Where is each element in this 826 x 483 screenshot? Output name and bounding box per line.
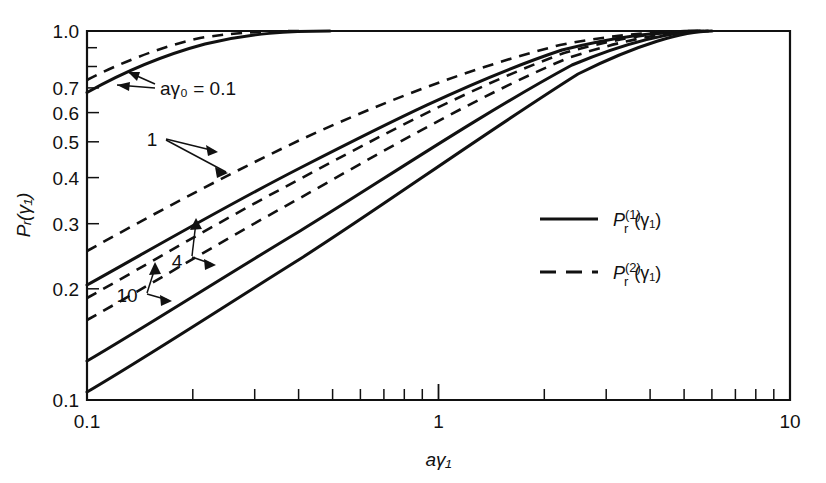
- x-axis-title-text: aγ₁: [425, 449, 451, 470]
- arrowhead-10-solid: [160, 295, 172, 306]
- legend-solid-arg: (γ₁): [634, 210, 661, 230]
- x-tick-label-2: 10: [779, 411, 800, 432]
- x-tick-label-1: 1: [433, 411, 444, 432]
- legend-label-solid: P(1)r(γ₁): [613, 207, 661, 236]
- annotation-label-0.1: aγ₀ = 0.1: [160, 78, 236, 99]
- legend-item-solid: P(1)r(γ₁): [540, 207, 661, 236]
- annotation-label-4: 4: [172, 251, 183, 272]
- y-tick-label-0: 0.1: [53, 390, 79, 411]
- curve-dashed-1: [87, 31, 698, 251]
- annotation-label-1: 1: [147, 129, 158, 150]
- figure-container: 0.1 0.2 0.3 0.4 0.5 0.6 0.7 1.0: [0, 0, 826, 483]
- annotation-a-gamma0-0.1: aγ₀ = 0.1: [117, 72, 236, 99]
- x-axis-title: aγ₁: [425, 449, 451, 470]
- legend-solid-sub: r: [624, 221, 629, 236]
- annotation-a-gamma0-10: 10: [116, 262, 172, 306]
- legend: P(1)r(γ₁) P(2)r(γ₁): [540, 207, 661, 289]
- arrowhead-1-dashed: [206, 145, 218, 156]
- arrowhead-4-solid: [204, 259, 216, 270]
- curve-dashed-10: [87, 31, 704, 320]
- y-axis-title-text: Pᵣ(γ₁): [13, 193, 34, 237]
- leader-1-solid: [166, 140, 226, 172]
- legend-dashed-arg: (γ₁): [634, 263, 661, 283]
- legend-dashed-sub: r: [624, 274, 629, 289]
- y-tick-label-6: 0.7: [53, 78, 79, 99]
- legend-label-dashed: P(2)r(γ₁): [613, 260, 661, 289]
- y-tick-label-1: 0.2: [53, 279, 79, 300]
- y-tick-label-5: 0.6: [53, 103, 79, 124]
- y-tick-label-3: 0.4: [53, 168, 80, 189]
- arrowhead-4-dashed: [190, 218, 202, 230]
- x-axis-ticks: [87, 384, 790, 400]
- curve-dashed-0.1: [87, 31, 305, 80]
- y-tick-label-2: 0.3: [53, 214, 79, 235]
- y-tick-label-4: 0.5: [53, 132, 79, 153]
- y-axis-title: Pᵣ(γ₁): [13, 193, 34, 237]
- chart-canvas: 0.1 0.2 0.3 0.4 0.5 0.6 0.7 1.0: [0, 0, 826, 483]
- y-axis-tick-labels: 0.1 0.2 0.3 0.4 0.5 0.6 0.7 1.0: [53, 21, 80, 411]
- arrowhead-0.1-dashed: [128, 72, 140, 81]
- arrowhead-0.1-solid: [117, 82, 130, 91]
- arrowhead-10-dashed: [149, 262, 161, 275]
- y-tick-label-7: 1.0: [53, 21, 79, 42]
- annotation-a-gamma0-1: 1: [147, 129, 228, 178]
- x-axis-tick-labels: 0.1 1 10: [74, 411, 801, 432]
- x-tick-label-0: 0.1: [74, 411, 100, 432]
- annotation-label-10: 10: [116, 285, 137, 306]
- legend-item-dashed: P(2)r(γ₁): [540, 260, 661, 289]
